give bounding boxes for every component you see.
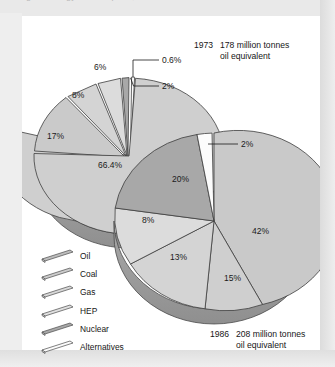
legend-label-gas: Gas: [80, 287, 95, 297]
chart-1973-amount-line2: oil equivalent: [220, 51, 289, 62]
figure-caption-strip: Fig. ... energy consumption, 1973 and 19…: [0, 0, 335, 13]
pie-1986-label-oil: 42%: [252, 226, 269, 236]
legend-label-coal: Coal: [80, 269, 97, 279]
figure-panel: 0.6% 2% 6% 8% 17% 66.4%: [22, 16, 320, 350]
pie-1973-label-oil: 66.4%: [98, 160, 123, 170]
pie-1973-label-coal: 17%: [47, 131, 64, 141]
pie-1973-label-alternatives: 0.6%: [162, 55, 182, 65]
pie-1986-label-alternatives: 2%: [241, 139, 254, 149]
page-margin-left: [0, 13, 22, 350]
legend-swatch-wedge-icon: [40, 284, 74, 299]
legend-label-hep: HEP: [80, 306, 97, 316]
pie-1973-label-hep: 6%: [94, 62, 107, 72]
legend-label-nuclear: Nuclear: [80, 324, 109, 334]
chart-1986-amount-line2: oil equivalent: [236, 340, 305, 351]
chart-1986-year: 1986: [210, 329, 236, 340]
pie-1986-label-gas: 13%: [170, 252, 187, 262]
figure-caption-text: Fig. ... energy consumption, 1973 and 19…: [18, 0, 200, 1]
chart-1973-title: 1973178 million tonnes oil equivalent: [194, 40, 289, 61]
pie-1973-label-nuclear: 2%: [162, 81, 175, 91]
pie-1986-label-nuclear: 20%: [172, 174, 189, 184]
legend-swatch-wedge-icon: [40, 321, 74, 336]
legend-swatch-wedge-icon: [40, 266, 74, 281]
page-margin-right: [320, 0, 335, 367]
pie-charts-graphic: 0.6% 2% 6% 8% 17% 66.4%: [22, 16, 320, 350]
legend-label-alternatives: Alternatives: [80, 342, 124, 352]
legend-swatch-wedge-icon: [40, 339, 74, 354]
pie-chart-1986: [114, 130, 320, 324]
chart-1973-year: 1973: [194, 40, 220, 51]
chart-1986-amount-line1: 208 million tonnes: [236, 329, 305, 339]
legend-label-oil: Oil: [80, 251, 90, 261]
pie-1973-label-gas: 8%: [72, 90, 85, 100]
legend-swatch-wedge-icon: [40, 303, 74, 318]
chart-1986-title: 1986208 million tonnes oil equivalent: [210, 329, 305, 350]
legend-swatch-wedge-icon: [40, 248, 74, 263]
pie-1986-label-coal: 15%: [224, 273, 241, 283]
pie-1986-label-hep: 8%: [142, 215, 155, 225]
chart-1973-amount-line1: 178 million tonnes: [220, 40, 289, 50]
